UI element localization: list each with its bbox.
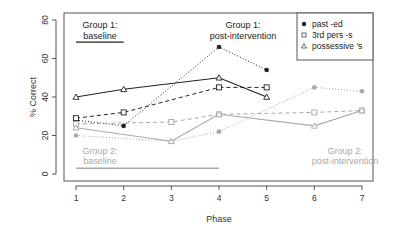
y-tick-label: 80	[40, 15, 50, 25]
filled-circle-icon	[121, 124, 126, 129]
x-tick-label: 7	[360, 193, 365, 203]
open-square-icon	[121, 110, 126, 115]
annotation-group2-baseline: Group 2: baseline	[82, 146, 117, 166]
chart-container: 020406080 1234567 % Correct Phase Group …	[0, 0, 393, 237]
annotation-text: post-intervention	[312, 156, 379, 166]
y-axis-label: % Correct	[28, 77, 38, 118]
x-tick-label: 6	[312, 193, 317, 203]
x-tick-label: 1	[74, 193, 79, 203]
legend-label-3rd: 3rd pers -s	[312, 30, 353, 40]
open-square-icon	[302, 33, 306, 37]
filled-circle-icon	[217, 129, 222, 134]
x-tick-label: 3	[169, 193, 174, 203]
y-tick-label: 60	[40, 54, 50, 64]
filled-circle-icon	[302, 22, 306, 26]
annotation-text: baseline	[83, 31, 117, 41]
y-axis: 020406080	[40, 15, 56, 176]
y-tick-label: 0	[40, 171, 50, 176]
open-square-icon	[312, 110, 317, 115]
x-tick-label: 4	[217, 193, 222, 203]
annotation-text: Group 2:	[82, 146, 117, 156]
open-triangle-icon	[216, 75, 222, 80]
series-line	[76, 78, 267, 97]
annotation-group2-post: Group 2: post-intervention	[312, 146, 379, 166]
series-group-1	[73, 45, 270, 129]
legend-label-past: past -ed	[312, 19, 343, 29]
x-axis-label: Phase	[206, 214, 232, 224]
filled-circle-icon	[264, 68, 269, 73]
annotation-text: baseline	[83, 156, 117, 166]
annotation-group1-baseline: Group 1: baseline	[82, 20, 117, 41]
legend-label-possessive: possessive 's	[312, 41, 362, 51]
x-tick-label: 5	[264, 193, 269, 203]
open-square-icon	[74, 116, 79, 121]
filled-circle-icon	[74, 133, 79, 138]
filled-circle-icon	[312, 85, 317, 90]
open-square-icon	[264, 85, 269, 90]
annotation-text: post-intervention	[210, 31, 277, 41]
open-square-icon	[217, 85, 222, 90]
annotation-text: Group 2:	[327, 146, 362, 156]
legend: past -ed 3rd pers -s possessive 's	[297, 13, 373, 60]
x-tick-label: 2	[121, 193, 126, 203]
line-chart: 020406080 1234567 % Correct Phase Group …	[0, 0, 393, 237]
y-tick-label: 20	[40, 131, 50, 141]
annotation-text: Group 1:	[82, 20, 117, 30]
filled-circle-icon	[217, 45, 222, 50]
annotation-text: Group 1:	[225, 20, 260, 30]
filled-circle-icon	[360, 89, 365, 94]
annotation-group1-post: Group 1: post-intervention	[210, 20, 277, 41]
y-tick-label: 40	[40, 92, 50, 102]
x-axis: 1234567	[74, 186, 365, 203]
open-square-icon	[169, 120, 174, 125]
series-group-2	[73, 85, 365, 144]
